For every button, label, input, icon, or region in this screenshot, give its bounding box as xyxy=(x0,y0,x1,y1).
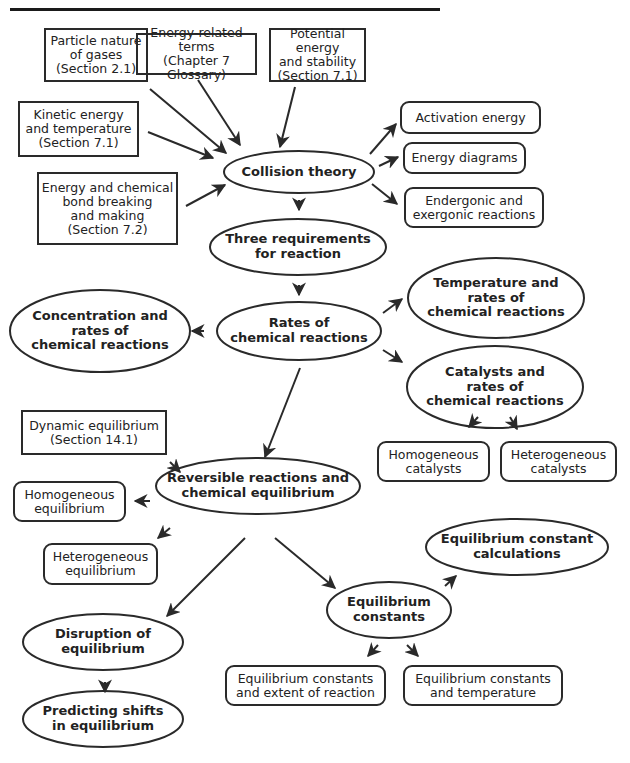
node-label: Heterogeneous catalysts xyxy=(511,448,607,476)
node-label: Equilibrium constants and extent of reac… xyxy=(236,672,375,700)
node-temperature-rates: Temperature and rates of chemical reacti… xyxy=(408,258,584,338)
node-label: Kinetic energy and temperature (Section … xyxy=(25,108,131,150)
node-predicting-shifts: Predicting shifts in equilibrium xyxy=(23,691,183,747)
node-label: Temperature and rates of chemical reacti… xyxy=(427,276,565,320)
node-label: Equilibrium constants xyxy=(347,595,431,624)
node-potential-energy: Potential energy and stability (Section … xyxy=(269,28,366,82)
node-energy-diagrams: Energy diagrams xyxy=(403,142,526,174)
node-homogeneous-catalysts: Homogeneous catalysts xyxy=(377,441,490,482)
node-label: Rates of chemical reactions xyxy=(230,316,368,345)
node-label: Predicting shifts in equilibrium xyxy=(42,704,163,733)
node-label: Reversible reactions and chemical equili… xyxy=(167,471,349,500)
node-collision-theory: Collision theory xyxy=(224,151,374,193)
node-kinetic-energy: Kinetic energy and temperature (Section … xyxy=(18,101,139,157)
node-label: Activation energy xyxy=(415,111,525,125)
node-catalysts: Catalysts and rates of chemical reaction… xyxy=(407,346,583,428)
node-eq-extent: Equilibrium constants and extent of reac… xyxy=(225,665,386,706)
node-label: Heterogeneous equilibrium xyxy=(53,550,149,578)
node-label: Energy-related terms (Chapter 7 Glossary… xyxy=(138,26,255,82)
node-label: Equilibrium constant calculations xyxy=(441,532,593,561)
node-eq-constants: Equilibrium constants xyxy=(327,582,451,638)
node-eq-temperature: Equilibrium constants and temperature xyxy=(403,665,563,706)
node-particle-nature: Particle nature of gases (Section 2.1) xyxy=(44,28,148,82)
node-endergonic: Endergonic and exergonic reactions xyxy=(404,187,544,228)
node-disruption: Disruption of equilibrium xyxy=(23,614,183,670)
node-heterogeneous-catalysts: Heterogeneous catalysts xyxy=(500,441,617,482)
node-label: Three requirements for reaction xyxy=(225,232,371,261)
node-label: Concentration and rates of chemical reac… xyxy=(31,309,169,353)
node-concentration: Concentration and rates of chemical reac… xyxy=(10,290,190,372)
node-energy-terms: Energy-related terms (Chapter 7 Glossary… xyxy=(136,33,257,75)
node-label: Equilibrium constants and temperature xyxy=(415,672,551,700)
node-label: Energy diagrams xyxy=(411,151,517,165)
node-dynamic-equilibrium: Dynamic equilibrium (Section 14.1) xyxy=(21,410,167,455)
node-homogeneous-equilibrium: Homogeneous equilibrium xyxy=(13,481,126,522)
node-rates: Rates of chemical reactions xyxy=(217,302,381,360)
node-reversible: Reversible reactions and chemical equili… xyxy=(156,458,360,514)
node-label: Homogeneous catalysts xyxy=(388,448,478,476)
node-label: Catalysts and rates of chemical reaction… xyxy=(426,365,564,409)
node-activation-energy: Activation energy xyxy=(400,101,541,134)
node-heterogeneous-equilibrium: Heterogeneous equilibrium xyxy=(43,543,158,585)
node-label: Collision theory xyxy=(242,165,357,180)
node-label: Dynamic equilibrium (Section 14.1) xyxy=(29,419,159,447)
node-label: Disruption of equilibrium xyxy=(55,627,151,656)
node-label: Energy and chemical bond breaking and ma… xyxy=(42,181,173,237)
node-three-requirements: Three requirements for reaction xyxy=(210,219,386,275)
node-label: Homogeneous equilibrium xyxy=(24,488,114,516)
node-eq-constant-calc: Equilibrium constant calculations xyxy=(426,519,608,575)
node-label: Endergonic and exergonic reactions xyxy=(413,194,535,222)
node-label: Potential energy and stability (Section … xyxy=(271,27,364,83)
node-bond-energy: Energy and chemical bond breaking and ma… xyxy=(37,172,178,245)
node-label: Particle nature of gases (Section 2.1) xyxy=(50,34,141,76)
